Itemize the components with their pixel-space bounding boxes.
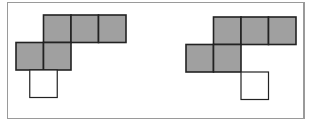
- empty-square: [241, 72, 269, 100]
- filled-square: [71, 15, 99, 43]
- filled-square: [241, 17, 269, 45]
- left-net: [16, 15, 126, 98]
- right-net: [186, 17, 296, 100]
- filled-square: [214, 17, 242, 45]
- filled-square: [16, 43, 44, 71]
- filled-square: [269, 17, 297, 45]
- filled-square: [44, 15, 72, 43]
- filled-square: [186, 45, 214, 73]
- filled-square: [214, 45, 242, 73]
- empty-square: [30, 70, 58, 98]
- filled-square: [99, 15, 127, 43]
- nets-diagram: [0, 0, 309, 123]
- filled-square: [44, 43, 72, 71]
